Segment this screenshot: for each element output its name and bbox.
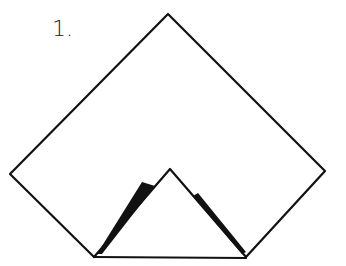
folded-triangle-outline [94,169,246,257]
bottom-edge [94,257,246,258]
fold-diagram [0,0,346,266]
diagram-canvas: 1. [0,0,346,266]
fold-shadow-right [193,193,246,254]
outer-paper-outline [10,14,325,257]
fold-shadow-left [97,182,155,254]
